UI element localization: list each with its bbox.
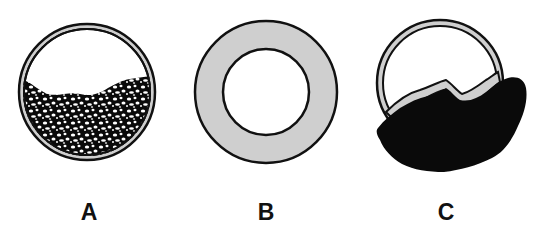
diagram-figure bbox=[0, 0, 544, 232]
panel-a-label: A bbox=[69, 199, 109, 226]
panel-a bbox=[14, 24, 160, 170]
panel-b-label: B bbox=[246, 199, 286, 226]
panel-b-lumen bbox=[223, 49, 309, 135]
panel-c bbox=[377, 20, 527, 172]
panel-b bbox=[195, 21, 337, 163]
panel-c-label: C bbox=[426, 199, 466, 226]
